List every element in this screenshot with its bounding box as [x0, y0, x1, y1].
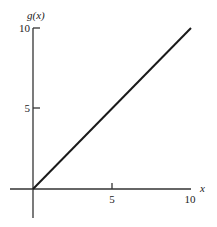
x-tick-label-10: 10: [185, 193, 197, 205]
y-tick-label-10: 10: [19, 22, 31, 34]
series-line-gx: [33, 28, 191, 189]
y-axis-label: g(x): [27, 9, 45, 22]
x-axis-label: x: [199, 182, 205, 194]
x-tick-label-5: 5: [109, 193, 115, 205]
y-tick-label-5: 5: [25, 102, 31, 114]
chart: g(x) 10 5 5 10 x: [0, 0, 217, 227]
